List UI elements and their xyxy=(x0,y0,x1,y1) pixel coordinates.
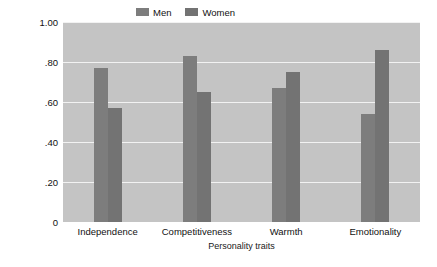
legend-label: Women xyxy=(202,7,235,18)
legend-swatch-icon xyxy=(136,8,149,16)
x-axis-title: Personality traits xyxy=(63,241,420,251)
y-axis-tick-label: 1.00 xyxy=(22,17,58,28)
x-axis-tick-label: Emotionality xyxy=(350,226,402,237)
x-axis-tick-label: Independence xyxy=(78,226,138,237)
gridline xyxy=(63,22,420,23)
legend-label: Men xyxy=(153,7,171,18)
legend-entry: Men xyxy=(136,7,171,18)
legend-swatch-icon xyxy=(185,8,198,16)
y-axis-tick-labels: 1.00.80.60.40.200 xyxy=(22,22,58,222)
chart-legend: MenWomen xyxy=(136,5,235,19)
plot-area xyxy=(63,22,420,222)
bar xyxy=(375,50,389,222)
bar xyxy=(361,114,375,222)
bar xyxy=(197,92,211,222)
gridline xyxy=(63,62,420,63)
x-axis-tick-labels: IndependenceCompetitivenessWarmthEmotion… xyxy=(63,226,420,240)
gridline xyxy=(63,102,420,103)
legend-entry: Women xyxy=(185,7,235,18)
bar xyxy=(108,108,122,222)
bar-chart-figure: Judged probability 1.00.80.60.40.200 Men… xyxy=(0,0,437,267)
y-axis-tick-label: .20 xyxy=(22,177,58,188)
bar xyxy=(183,56,197,222)
bar xyxy=(286,72,300,222)
bar xyxy=(94,68,108,222)
y-axis-tick-label: .80 xyxy=(22,57,58,68)
x-axis-tick-label: Warmth xyxy=(270,226,303,237)
y-axis-tick-label: 0 xyxy=(22,217,58,228)
x-axis-tick-label: Competitiveness xyxy=(162,226,232,237)
bar xyxy=(272,88,286,222)
y-axis-tick-label: .40 xyxy=(22,137,58,148)
y-axis-tick-label: .60 xyxy=(22,97,58,108)
